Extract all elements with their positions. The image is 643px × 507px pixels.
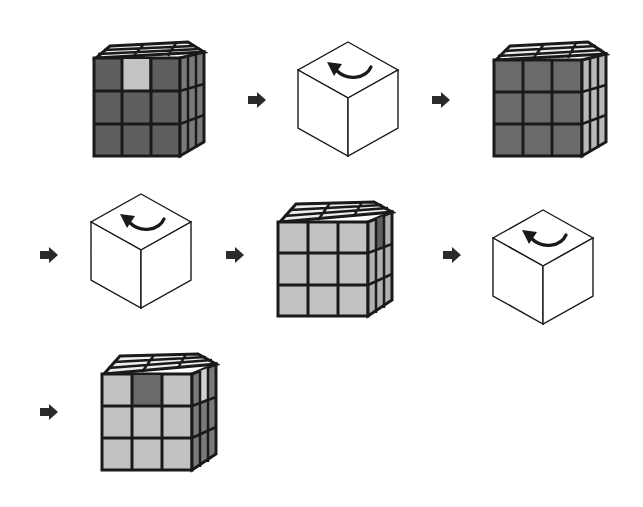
cube-state-3 bbox=[272, 196, 396, 320]
arrow-icon bbox=[40, 404, 58, 420]
arrow-icon bbox=[248, 92, 266, 108]
arrow-icon bbox=[432, 92, 450, 108]
rotate-cube-icon bbox=[89, 192, 195, 312]
cube-state-2 bbox=[488, 38, 610, 162]
arrow-icon bbox=[40, 247, 58, 263]
arrow-icon bbox=[443, 247, 461, 263]
cube-state-4 bbox=[96, 348, 220, 474]
rotate-cube-icon bbox=[296, 40, 402, 160]
arrow-icon bbox=[226, 247, 244, 263]
cube-state-1 bbox=[88, 38, 208, 162]
rotate-cube-icon bbox=[491, 208, 597, 328]
